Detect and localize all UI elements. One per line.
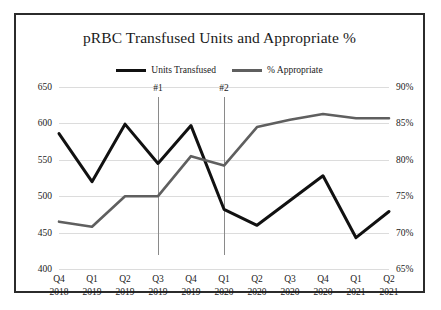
x-axis-tick-label: Q22020 bbox=[248, 273, 267, 299]
x-axis-tick-quarter: Q3 bbox=[281, 273, 300, 286]
right-axis-tick-label: 65% bbox=[396, 264, 413, 274]
x-axis-tick-label: Q12021 bbox=[347, 273, 366, 299]
x-axis-tick-label: Q42020 bbox=[314, 273, 333, 299]
left-axis-tick-label: 550 bbox=[38, 155, 52, 165]
x-axis-tick-year: 2019 bbox=[149, 286, 168, 299]
series-lines bbox=[59, 87, 389, 269]
x-axis-tick-year: 2020 bbox=[215, 286, 234, 299]
x-axis-tick-label: Q32020 bbox=[281, 273, 300, 299]
x-axis-tick-label: Q12020 bbox=[215, 273, 234, 299]
x-axis-tick-quarter: Q2 bbox=[380, 273, 399, 286]
x-axis-tick-quarter: Q2 bbox=[116, 273, 135, 286]
x-axis-tick-year: 2019 bbox=[182, 286, 201, 299]
chart-title: pRBC Transfused Units and Appropriate % bbox=[16, 29, 423, 47]
x-axis-tick-label: Q32019 bbox=[149, 273, 168, 299]
series-line-units-transfused bbox=[59, 124, 389, 238]
x-axis-tick-quarter: Q2 bbox=[248, 273, 267, 286]
x-axis-tick-year: 2021 bbox=[347, 286, 366, 299]
x-axis-tick-quarter: Q1 bbox=[215, 273, 234, 286]
gridline bbox=[59, 269, 389, 270]
x-axis-tick-label: Q12019 bbox=[83, 273, 102, 299]
x-axis-tick-label: Q42018 bbox=[50, 273, 69, 299]
x-axis-tick-quarter: Q1 bbox=[347, 273, 366, 286]
right-axis-tick-label: 85% bbox=[396, 118, 413, 128]
x-axis-tick-label: Q42019 bbox=[182, 273, 201, 299]
left-axis-tick-label: 600 bbox=[38, 118, 52, 128]
x-axis-labels: Q42018Q12019Q22019Q32019Q42019Q12020Q220… bbox=[59, 273, 389, 310]
legend-entry-units-transfused: Units Transfused bbox=[116, 65, 216, 75]
x-axis-tick-year: 2019 bbox=[116, 286, 135, 299]
chart-frame: pRBC Transfused Units and Appropriate % … bbox=[14, 13, 425, 293]
x-axis-tick-label: Q22021 bbox=[380, 273, 399, 299]
left-axis-tick-label: 650 bbox=[38, 82, 52, 92]
x-axis-tick-year: 2020 bbox=[248, 286, 267, 299]
legend-swatch-units-transfused bbox=[116, 69, 146, 72]
chart-legend: Units Transfused % Appropriate bbox=[16, 65, 423, 75]
right-axis-tick-label: 80% bbox=[396, 155, 413, 165]
right-axis-tick-label: 75% bbox=[396, 191, 413, 201]
x-axis-tick-year: 2018 bbox=[50, 286, 69, 299]
legend-entry-percent-appropriate: % Appropriate bbox=[232, 65, 323, 75]
x-axis-tick-quarter: Q4 bbox=[182, 273, 201, 286]
legend-swatch-percent-appropriate bbox=[232, 69, 262, 72]
right-axis-tick-label: 90% bbox=[396, 82, 413, 92]
left-axis-tick-label: 500 bbox=[38, 191, 52, 201]
x-axis-tick-quarter: Q1 bbox=[83, 273, 102, 286]
x-axis-tick-quarter: Q4 bbox=[314, 273, 333, 286]
plot-area: 650600550500450400 90%85%80%75%70%65% #1… bbox=[59, 87, 389, 269]
x-axis-tick-year: 2020 bbox=[314, 286, 333, 299]
left-axis-tick-label: 450 bbox=[38, 228, 52, 238]
x-axis-tick-quarter: Q4 bbox=[50, 273, 69, 286]
right-axis-tick-label: 70% bbox=[396, 228, 413, 238]
x-axis-tick-year: 2020 bbox=[281, 286, 300, 299]
legend-label-percent-appropriate: % Appropriate bbox=[267, 65, 323, 75]
legend-label-units-transfused: Units Transfused bbox=[151, 65, 216, 75]
x-axis-tick-quarter: Q3 bbox=[149, 273, 168, 286]
x-axis-tick-year: 2019 bbox=[83, 286, 102, 299]
x-axis-tick-year: 2021 bbox=[380, 286, 399, 299]
x-axis-tick-label: Q22019 bbox=[116, 273, 135, 299]
